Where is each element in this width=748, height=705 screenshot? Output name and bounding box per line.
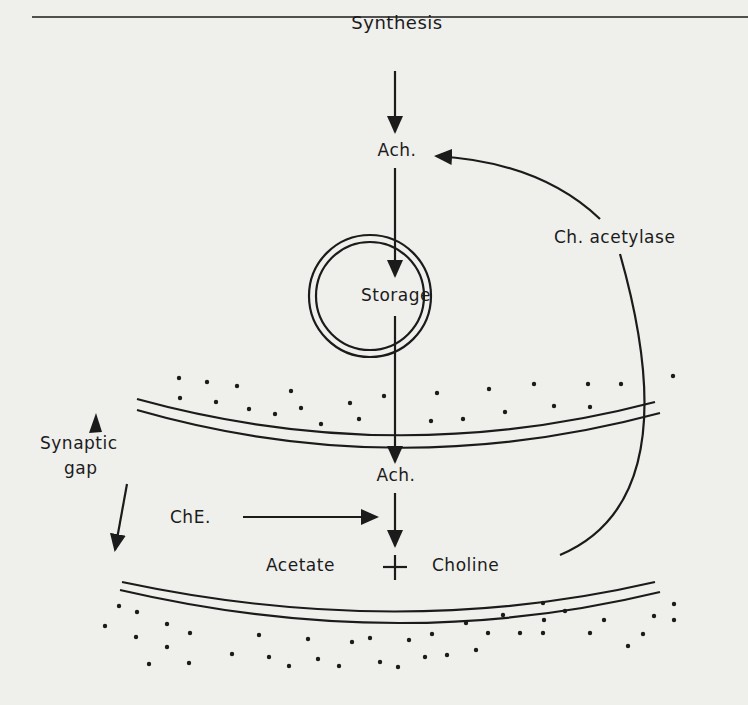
arrow-gap-down bbox=[115, 484, 127, 550]
label-gap: gap bbox=[64, 458, 98, 478]
label-acetate: Acetate bbox=[266, 555, 335, 575]
diagram-canvas bbox=[0, 0, 748, 705]
label-che: ChE. bbox=[170, 507, 211, 527]
label-synaptic: Synaptic bbox=[40, 433, 118, 453]
label-storage: Storage bbox=[361, 285, 431, 305]
label-synthesis: Synthesis bbox=[351, 12, 442, 33]
arrow-choline-curve-lower bbox=[560, 254, 645, 555]
dots-presynaptic bbox=[177, 374, 675, 426]
label-ch-acetylase: Ch. acetylase bbox=[554, 227, 675, 247]
presynaptic-membrane-lower bbox=[137, 410, 660, 448]
label-choline: Choline bbox=[432, 555, 499, 575]
label-ach-top: Ach. bbox=[378, 140, 417, 160]
label-ach-bottom: Ach. bbox=[377, 465, 416, 485]
postsynaptic-membrane-lower bbox=[120, 590, 660, 623]
arrow-choline-curve-upper bbox=[436, 156, 600, 219]
arrow-gap-up-head bbox=[89, 413, 102, 433]
